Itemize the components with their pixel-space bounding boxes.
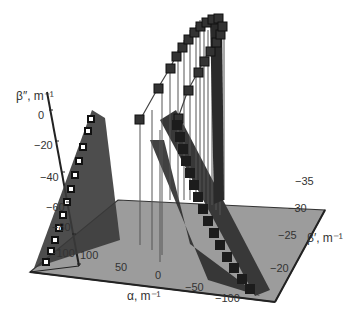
x-tick: 50 [115,262,127,273]
z-tick: −20 [34,140,53,151]
y-axis-label: β′, m⁻¹ [307,232,343,244]
z-tick: 0 [38,110,44,121]
plot-area [0,0,352,317]
z-tick: −100 [50,248,75,259]
z-tick: −80 [52,222,71,233]
x-tick: −50 [185,282,204,293]
y-tick: −35 [295,176,314,187]
z-tick: −40 [40,172,59,183]
chart-3d: β″, m⁻¹ 0 −20 −40 −60 −80 −100 100 50 0 … [0,0,352,317]
x-tick: 0 [155,270,161,281]
y-tick: −25 [278,230,297,241]
y-tick: −30 [288,203,307,214]
z-tick: −60 [46,202,65,213]
z-axis-label: β″, m⁻¹ [16,90,54,102]
x-tick: 100 [80,250,98,261]
y-tick: −20 [270,263,289,274]
x-tick: −100 [215,293,240,304]
x-axis-label: α, m⁻¹ [127,290,161,302]
